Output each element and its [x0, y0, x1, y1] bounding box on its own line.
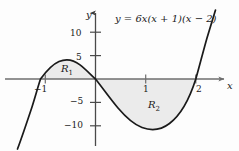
y-tick-label-neg10: −10: [64, 121, 83, 130]
y-tick-label-5: 5: [76, 53, 82, 62]
y-tick-label-10: 10: [70, 29, 81, 38]
y-axis-label: y: [86, 10, 92, 20]
region-label-r2: R2: [148, 100, 160, 113]
x-tick-label-1: 1: [143, 85, 149, 94]
region-label-r1: R1: [61, 64, 73, 77]
x-tick-label-2: 2: [196, 85, 202, 94]
region-label-r1-subscript: 1: [69, 69, 73, 77]
x-tick-label-neg1: −1: [34, 85, 47, 94]
region-label-r1-letter: R: [61, 63, 69, 74]
figure-container: y = 6x(x + 1)(x − 2) y x 10 5 −5 −10 −1 …: [0, 0, 239, 151]
region-label-r2-subscript: 2: [156, 105, 160, 113]
x-axis-label: x: [227, 81, 233, 91]
region-label-r2-letter: R: [148, 99, 156, 110]
curve-equation-label: y = 6x(x + 1)(x − 2): [115, 14, 216, 24]
y-tick-label-neg5: −5: [70, 97, 83, 106]
